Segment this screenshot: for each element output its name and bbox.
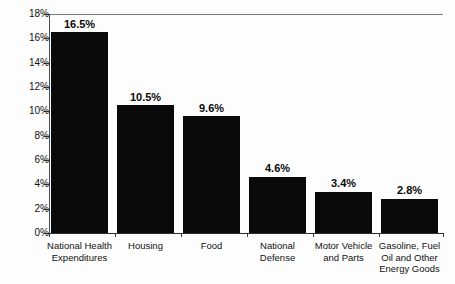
y-tick-label: 6% <box>13 155 49 165</box>
y-tick-label: 2% <box>13 204 49 214</box>
y-tick-label: 8% <box>13 131 49 141</box>
category-label-line: Oil and Other <box>375 252 444 264</box>
y-axis-line <box>49 14 50 234</box>
chart-top-frame-line <box>49 14 443 15</box>
bar-national-health-expenditures[interactable] <box>51 32 108 233</box>
bar-value-label: 10.5% <box>117 91 174 103</box>
y-tick-label: 14% <box>13 58 49 68</box>
category-label-line: Expenditures <box>45 252 114 264</box>
category-label-line: Gasoline, Fuel <box>375 240 444 252</box>
category-label-line: Defense <box>243 252 312 264</box>
bar-chart: 18% 16% 14% 12% 10% 8% 6% 4% <box>0 0 455 284</box>
bar-value-label: 3.4% <box>315 177 372 189</box>
bar-housing[interactable] <box>117 105 174 233</box>
x-tick-mark <box>379 233 380 237</box>
category-label-line: Motor Vehicle <box>309 240 378 252</box>
bar-value-label: 4.6% <box>249 162 306 174</box>
bar-motor-vehicle-and-parts[interactable] <box>315 192 372 233</box>
bar-gasoline-fuel-oil-and-other-energy-goods[interactable] <box>381 199 438 233</box>
category-label-line: National Health <box>45 240 114 252</box>
bar-food[interactable] <box>183 116 240 233</box>
y-tick-label: 16% <box>13 33 49 43</box>
category-label-national-health-expenditures: National Health Expenditures <box>45 240 114 263</box>
category-label-gasoline-fuel-oil-and-other-energy-goods: Gasoline, Fuel Oil and Other Energy Good… <box>375 240 444 275</box>
category-label-line: Food <box>177 240 246 252</box>
x-tick-mark <box>181 233 182 237</box>
y-tick-label: 18% <box>13 9 49 19</box>
bar-value-label: 9.6% <box>183 102 240 114</box>
x-tick-mark <box>49 233 50 237</box>
x-tick-mark <box>313 233 314 237</box>
category-label-food: Food <box>177 240 246 252</box>
category-label-line: and Parts <box>309 252 378 264</box>
x-tick-mark <box>115 233 116 237</box>
y-tick-label: 4% <box>13 179 49 189</box>
x-axis-line <box>49 233 443 234</box>
x-tick-mark <box>247 233 248 237</box>
category-label-line: National <box>243 240 312 252</box>
y-tick-label: 10% <box>13 106 49 116</box>
x-tick-mark <box>443 233 444 237</box>
bar-value-label: 16.5% <box>51 18 108 30</box>
category-label-line: Energy Goods <box>375 263 444 275</box>
y-tick-label: 0% <box>13 228 49 238</box>
category-label-national-defense: National Defense <box>243 240 312 263</box>
bar-value-label: 2.8% <box>381 184 438 196</box>
bar-national-defense[interactable] <box>249 177 306 233</box>
category-label-housing: Housing <box>111 240 180 252</box>
y-tick-label: 12% <box>13 82 49 92</box>
category-label-line: Housing <box>111 240 180 252</box>
category-label-motor-vehicle-and-parts: Motor Vehicle and Parts <box>309 240 378 263</box>
plot-area: 18% 16% 14% 12% 10% 8% 6% 4% <box>0 0 455 284</box>
